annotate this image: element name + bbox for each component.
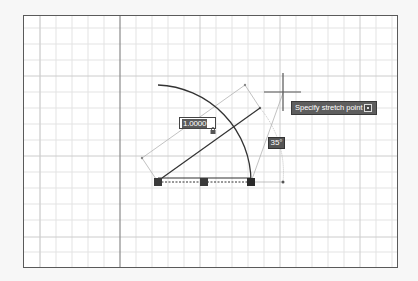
- length-input[interactable]: 1.0000: [179, 117, 216, 129]
- geometry: [158, 85, 260, 182]
- length-value[interactable]: 1.0000: [182, 119, 207, 128]
- grip-midpoint[interactable]: [200, 178, 208, 186]
- command-prompt-tooltip: Specify stretch point or: [291, 101, 377, 115]
- construction-point: [244, 84, 246, 86]
- lock-icon[interactable]: [210, 120, 216, 127]
- angle-input[interactable]: 35°: [268, 137, 285, 149]
- prompt-text: Specify stretch point or: [295, 103, 371, 112]
- grid: [24, 16, 397, 267]
- options-arrow-icon[interactable]: [364, 104, 372, 112]
- drawing-canvas[interactable]: [0, 0, 418, 281]
- construction-lines: [142, 85, 283, 182]
- arc: [158, 85, 251, 182]
- grip-end[interactable]: [247, 178, 255, 186]
- stretch-endpoint: [282, 181, 285, 184]
- grip-start[interactable]: [154, 178, 162, 186]
- construction-point: [141, 157, 143, 159]
